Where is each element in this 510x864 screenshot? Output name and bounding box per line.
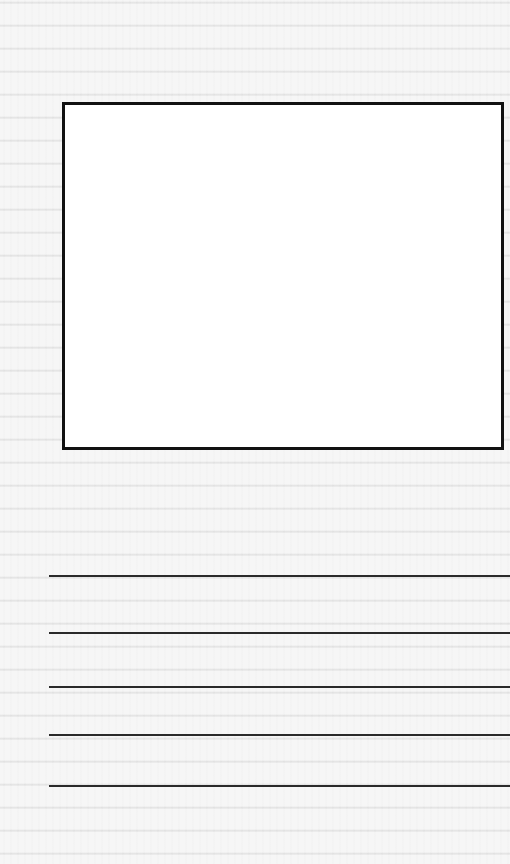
writing-line-4[interactable]: [49, 734, 510, 736]
writing-line-5[interactable]: [49, 785, 510, 787]
writing-line-1[interactable]: [49, 575, 510, 577]
writing-line-2[interactable]: [49, 632, 510, 634]
worksheet-page: [0, 0, 510, 864]
writing-line-3[interactable]: [49, 686, 510, 688]
drawing-box[interactable]: [62, 102, 504, 450]
